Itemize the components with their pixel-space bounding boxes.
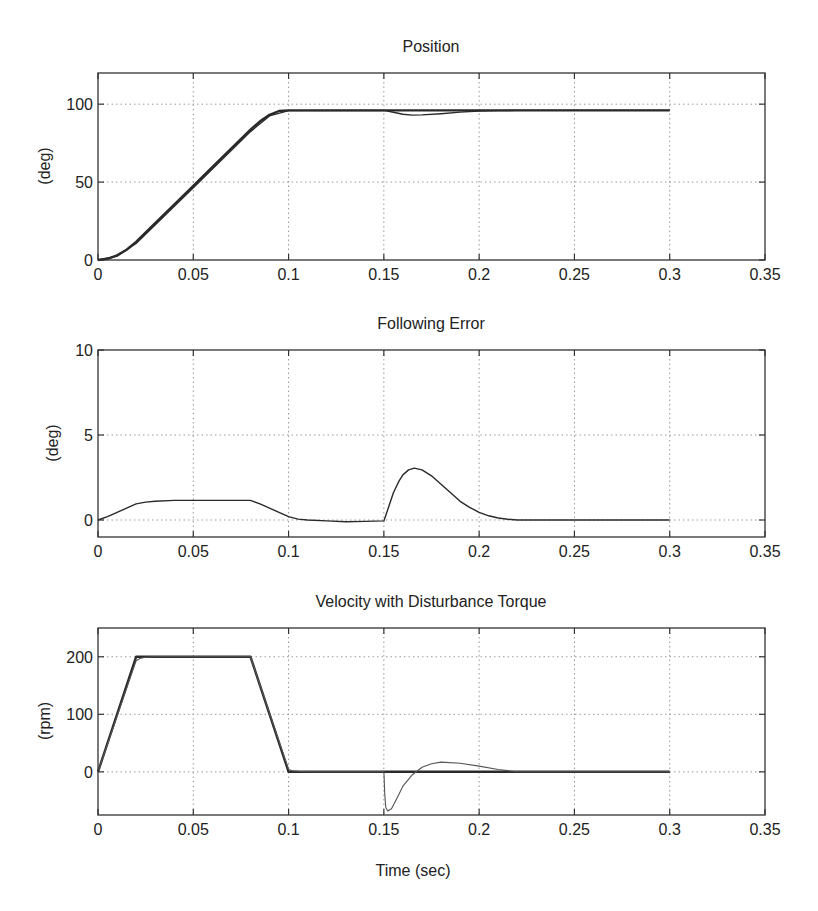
velocity-ylabel: (rpm) bbox=[36, 702, 53, 740]
position-axes-frame bbox=[98, 73, 765, 260]
x-tick-label: 0.25 bbox=[559, 266, 590, 283]
y-tick-label: 200 bbox=[66, 649, 93, 666]
x-tick-label: 0.05 bbox=[178, 543, 209, 560]
x-tick-label: 0.05 bbox=[178, 821, 209, 838]
y-tick-label: 0 bbox=[84, 512, 93, 529]
y-tick-label: 50 bbox=[75, 174, 93, 191]
position-title: Position bbox=[403, 38, 460, 55]
y-tick-label: 0 bbox=[84, 764, 93, 781]
x-tick-label: 0.15 bbox=[368, 543, 399, 560]
x-tick-label: 0.1 bbox=[277, 543, 299, 560]
x-tick-label: 0 bbox=[94, 543, 103, 560]
x-tick-label: 0.1 bbox=[277, 266, 299, 283]
x-tick-label: 0.3 bbox=[659, 543, 681, 560]
x-tick-label: 0.3 bbox=[659, 266, 681, 283]
velocity-plot: 00.050.10.150.20.250.30.350100200 bbox=[66, 628, 780, 838]
x-tick-label: 0.35 bbox=[749, 266, 780, 283]
position-plot: 00.050.10.150.20.250.30.35050100 bbox=[66, 73, 780, 283]
x-tick-label: 0.25 bbox=[559, 543, 590, 560]
position-ylabel: (deg) bbox=[36, 147, 53, 184]
x-tick-label: 0.2 bbox=[468, 266, 490, 283]
following-error-plot: 00.050.10.150.20.250.30.350510 bbox=[75, 342, 780, 560]
x-tick-label: 0.35 bbox=[749, 821, 780, 838]
following-error-ylabel: (deg) bbox=[44, 424, 61, 461]
following-error-title: Following Error bbox=[377, 315, 485, 332]
figure-canvas: 00.050.10.150.20.250.30.35050100 00.050.… bbox=[0, 0, 818, 911]
x-tick-label: 0.25 bbox=[559, 821, 590, 838]
x-tick-label: 0.15 bbox=[368, 821, 399, 838]
velocity-series-2 bbox=[98, 657, 670, 811]
time-xlabel: Time (sec) bbox=[376, 862, 451, 879]
x-tick-label: 0 bbox=[94, 266, 103, 283]
x-tick-label: 0.35 bbox=[749, 543, 780, 560]
y-tick-label: 10 bbox=[75, 342, 93, 359]
x-tick-label: 0.1 bbox=[277, 821, 299, 838]
y-tick-label: 100 bbox=[66, 706, 93, 723]
following-error-axes-frame bbox=[98, 350, 765, 537]
x-tick-label: 0.2 bbox=[468, 821, 490, 838]
x-tick-label: 0.2 bbox=[468, 543, 490, 560]
y-tick-label: 100 bbox=[66, 96, 93, 113]
x-tick-label: 0 bbox=[94, 821, 103, 838]
x-tick-label: 0.3 bbox=[659, 821, 681, 838]
y-tick-label: 0 bbox=[84, 252, 93, 269]
velocity-title: Velocity with Disturbance Torque bbox=[316, 593, 547, 610]
x-tick-label: 0.15 bbox=[368, 266, 399, 283]
y-tick-label: 5 bbox=[84, 427, 93, 444]
x-tick-label: 0.05 bbox=[178, 266, 209, 283]
